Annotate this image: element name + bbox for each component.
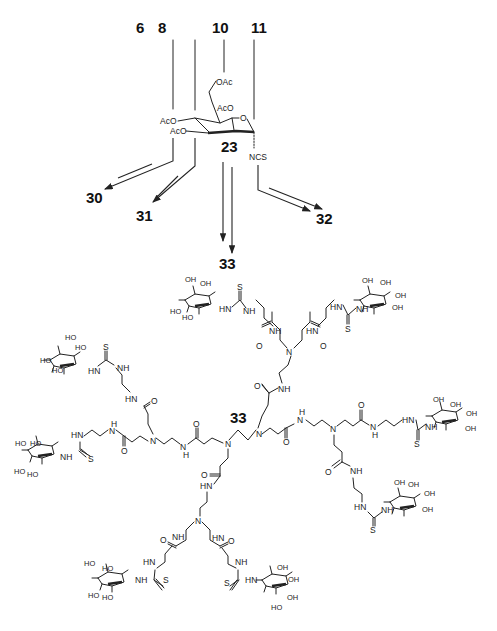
svg-text:HN: HN — [330, 302, 342, 312]
reaction-scheme: 6 8 10 11 OAc AcO AcO AcO O 23 NCS — [0, 0, 497, 631]
svg-text:S: S — [345, 324, 351, 334]
svg-text:OH: OH — [288, 575, 299, 584]
svg-text:N: N — [225, 439, 231, 449]
svg-text:S: S — [237, 282, 243, 292]
svg-text:HO: HO — [52, 366, 63, 375]
svg-text:HO: HO — [65, 333, 76, 342]
svg-text:HN: HN — [306, 326, 318, 336]
svg-text:H: H — [372, 430, 378, 440]
svg-text:OH: OH — [422, 505, 433, 514]
svg-text:HO: HO — [88, 591, 99, 600]
label-11: 11 — [251, 19, 267, 36]
svg-text:O: O — [121, 446, 128, 456]
svg-text:HN: HN — [143, 557, 155, 567]
ring-oxygen: O — [240, 113, 247, 123]
svg-text:S: S — [163, 575, 169, 585]
label-10: 10 — [212, 19, 229, 36]
reaction-arrows — [105, 138, 322, 253]
svg-text:OH: OH — [433, 395, 444, 404]
aco-c2: AcO — [217, 103, 234, 113]
svg-text:OH: OH — [362, 276, 373, 285]
svg-text:N: N — [195, 516, 201, 526]
svg-text:H: H — [183, 450, 189, 460]
svg-text:HO: HO — [75, 343, 86, 352]
svg-text:HO: HO — [30, 439, 41, 448]
svg-text:O: O — [283, 437, 290, 447]
reactant-labels: 6 8 10 11 — [136, 19, 267, 36]
svg-text:S: S — [224, 578, 230, 588]
svg-text:H: H — [299, 407, 305, 417]
product-labels: 30 31 32 33 — [86, 189, 333, 272]
svg-text:HO: HO — [102, 564, 113, 573]
svg-text:NH: NH — [350, 466, 362, 476]
svg-text:S: S — [414, 439, 420, 449]
svg-text:NH: NH — [235, 557, 247, 567]
ncs-group: NCS — [249, 152, 267, 162]
svg-text:H: H — [111, 419, 117, 429]
svg-text:O: O — [151, 396, 158, 406]
svg-text:OH: OH — [466, 409, 477, 418]
svg-text:O: O — [201, 470, 208, 480]
svg-text:HN: HN — [219, 304, 231, 314]
oac-c6: OAc — [216, 77, 233, 87]
svg-text:N: N — [150, 436, 156, 446]
svg-text:OH: OH — [408, 480, 419, 489]
svg-text:OH: OH — [394, 478, 405, 487]
svg-text:OH: OH — [392, 303, 403, 312]
svg-text:OH: OH — [395, 291, 406, 300]
svg-text:OH: OH — [424, 489, 435, 498]
svg-text:OH: OH — [380, 278, 391, 287]
svg-text:HO: HO — [102, 593, 113, 602]
building-block-23: OAc AcO AcO AcO O 23 NCS — [160, 77, 267, 162]
svg-text:NH: NH — [381, 505, 393, 515]
svg-text:O: O — [320, 341, 327, 351]
label-23: 23 — [221, 138, 238, 155]
aco-c4: AcO — [160, 116, 177, 126]
svg-text:O: O — [254, 381, 261, 391]
dendrimer-label: 33 — [230, 409, 247, 426]
label-30: 30 — [86, 189, 103, 206]
svg-text:S: S — [103, 342, 109, 352]
svg-text:OH: OH — [465, 424, 476, 433]
svg-text:HO: HO — [27, 470, 38, 479]
svg-text:HN: HN — [354, 502, 366, 512]
svg-text:O: O — [325, 467, 332, 477]
label-8: 8 — [158, 19, 166, 36]
svg-text:O: O — [358, 400, 365, 410]
svg-text:NH: NH — [243, 306, 255, 316]
svg-text:NH: NH — [278, 384, 290, 394]
svg-text:NH: NH — [60, 452, 72, 462]
dendrimer-33: 33 N N O NH N O NH NH S HN OH OH HO HO O… — [14, 275, 477, 612]
aco-c3: AcO — [170, 126, 187, 136]
svg-text:HN: HN — [245, 575, 257, 585]
svg-text:HO: HO — [40, 356, 51, 365]
svg-text:HN: HN — [88, 366, 100, 376]
svg-text:HN: HN — [71, 430, 83, 440]
svg-text:OH: OH — [450, 400, 461, 409]
svg-text:S: S — [370, 525, 376, 535]
svg-text:OH: OH — [200, 279, 211, 288]
svg-text:HO: HO — [271, 603, 282, 612]
svg-text:OH: OH — [287, 593, 298, 602]
svg-text:O: O — [228, 536, 235, 546]
svg-text:HN: HN — [212, 533, 224, 543]
label-32: 32 — [316, 210, 333, 227]
svg-text:NH: NH — [135, 575, 147, 585]
svg-text:HN: HN — [200, 481, 212, 491]
svg-text:N: N — [330, 424, 336, 434]
svg-text:OH: OH — [277, 563, 288, 572]
svg-text:O: O — [160, 535, 167, 545]
svg-text:O: O — [193, 419, 200, 429]
svg-text:S: S — [88, 454, 94, 464]
svg-text:NH: NH — [269, 326, 281, 336]
svg-text:HO: HO — [170, 307, 181, 316]
svg-text:HO: HO — [14, 467, 25, 476]
svg-text:HO: HO — [15, 439, 26, 448]
label-6: 6 — [136, 19, 144, 36]
svg-text:NH: NH — [356, 304, 368, 314]
svg-text:HN: HN — [125, 394, 137, 404]
label-33: 33 — [219, 255, 236, 272]
svg-text:NH: NH — [117, 363, 129, 373]
svg-text:HO: HO — [84, 559, 95, 568]
svg-text:HO: HO — [182, 313, 193, 322]
